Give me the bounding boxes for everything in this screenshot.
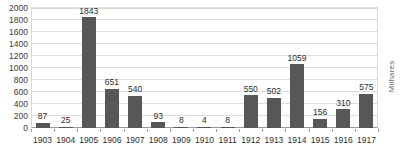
bar-group: 550 — [239, 8, 262, 128]
bar-group: 4 — [193, 8, 216, 128]
y-axis-tick-label: 1400 — [0, 40, 28, 49]
bar — [197, 127, 211, 129]
x-axis-tick — [147, 129, 148, 132]
bar — [290, 64, 304, 128]
x-axis-tick — [378, 129, 379, 132]
bar-value-label: 550 — [244, 85, 258, 94]
bar-group: 502 — [262, 8, 285, 128]
secondary-axis-title: Milhares — [384, 0, 400, 153]
bar — [174, 127, 188, 129]
bar — [151, 122, 165, 128]
y-axis-tick-label: 400 — [0, 100, 28, 109]
x-axis-tick — [54, 129, 55, 132]
bar-value-label: 1843 — [79, 7, 98, 16]
x-axis-tick — [100, 129, 101, 132]
x-axis-tick — [170, 129, 171, 132]
x-axis-tick — [239, 129, 240, 132]
bar-value-label: 4 — [202, 116, 207, 125]
bar-group: 540 — [124, 8, 147, 128]
bar-group: 310 — [332, 8, 355, 128]
bar-value-label: 93 — [153, 112, 162, 121]
bar-group: 93 — [147, 8, 170, 128]
bar-value-label: 8 — [225, 116, 230, 125]
bar-group: 651 — [100, 8, 123, 128]
bar-group: 156 — [309, 8, 332, 128]
bar — [36, 123, 50, 128]
x-axis-tick — [77, 129, 78, 132]
bar-value-label: 1059 — [288, 54, 307, 63]
bar-group: 1843 — [77, 8, 100, 128]
bar-value-label: 310 — [336, 99, 350, 108]
bar — [128, 96, 142, 128]
x-axis-tick — [193, 129, 194, 132]
bar — [313, 119, 327, 128]
bar-value-label: 502 — [267, 87, 281, 96]
bar-group: 87 — [31, 8, 54, 128]
y-axis-tick-label: 1000 — [0, 64, 28, 73]
x-axis: 1903190419051906190719081909191019111912… — [31, 129, 378, 153]
bar — [82, 17, 96, 128]
bar-value-label: 25 — [61, 116, 70, 125]
x-axis-tick — [355, 129, 356, 132]
y-axis-tick-label: 2000 — [0, 4, 28, 13]
bar — [105, 89, 119, 128]
bar-group: 1059 — [285, 8, 308, 128]
bar-value-label: 540 — [128, 85, 142, 94]
y-axis-tick-label: 1800 — [0, 16, 28, 25]
bar-value-label: 87 — [38, 112, 47, 121]
x-axis-tick — [285, 129, 286, 132]
secondary-axis-title-label: Milhares — [388, 61, 397, 93]
bar-chart: 0200400600800100012001400160018002000 87… — [0, 0, 402, 153]
y-axis-tick-label: 200 — [0, 112, 28, 121]
y-axis-tick-label: 0 — [0, 124, 28, 133]
bar — [244, 95, 258, 128]
bar — [359, 94, 373, 129]
bar-value-label: 156 — [313, 108, 327, 117]
bar-value-label: 8 — [179, 116, 184, 125]
bar-value-label: 651 — [105, 78, 119, 87]
y-axis-tick-label: 1600 — [0, 28, 28, 37]
x-axis-tick — [31, 129, 32, 132]
bar — [336, 109, 350, 128]
x-axis-tick — [262, 129, 263, 132]
bar — [221, 127, 235, 129]
bar — [267, 98, 281, 128]
bar — [59, 127, 73, 129]
bar-group: 8 — [216, 8, 239, 128]
x-axis-tick — [216, 129, 217, 132]
x-axis-tick-label: 1917 — [349, 136, 383, 145]
x-axis-tick — [309, 129, 310, 132]
bar-group: 575 — [355, 8, 378, 128]
bar-value-label: 575 — [359, 83, 373, 92]
y-axis-tick-label: 600 — [0, 88, 28, 97]
bar-group: 8 — [170, 8, 193, 128]
bars-layer: 87251843651540938485505021059156310575 — [31, 8, 378, 128]
x-axis-tick — [124, 129, 125, 132]
bar-group: 25 — [54, 8, 77, 128]
y-axis-tick-label: 1200 — [0, 52, 28, 61]
y-axis-tick-label: 800 — [0, 76, 28, 85]
x-axis-tick — [332, 129, 333, 132]
